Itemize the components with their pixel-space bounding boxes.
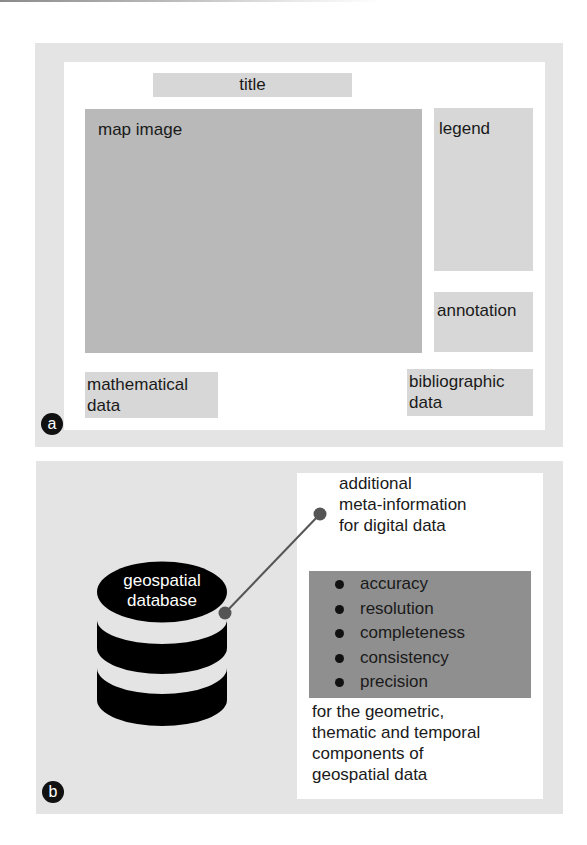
database-diagram bbox=[0, 0, 587, 845]
database-label: geospatial database bbox=[97, 571, 227, 611]
database-label-text: geospatial database bbox=[97, 571, 227, 611]
panel-b-badge: b bbox=[42, 781, 64, 803]
connector-line bbox=[219, 508, 327, 620]
